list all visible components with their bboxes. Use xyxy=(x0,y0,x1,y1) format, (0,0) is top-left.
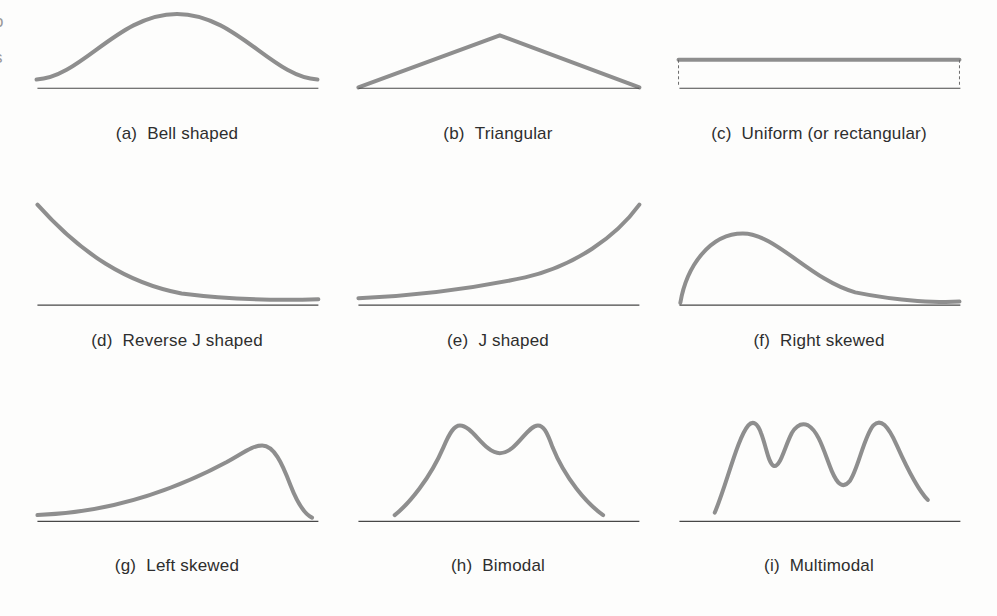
caption-tag: (d) xyxy=(91,331,112,351)
caption-name: Bimodal xyxy=(482,556,545,576)
reverse-j-curve xyxy=(37,205,318,300)
j-curve xyxy=(358,205,639,299)
panel-caption: (g) Left skewed xyxy=(115,556,239,576)
left-skewed-curve xyxy=(37,446,312,518)
caption-name: J shaped xyxy=(478,331,549,351)
figure-row-2: (d) Reverse J shaped (e) J shaped (f) Ri… xyxy=(32,185,964,351)
panel-caption: (h) Bimodal xyxy=(451,556,545,576)
triangle-curve xyxy=(358,35,639,87)
panel-uniform: (c) Uniform (or rectangular) xyxy=(674,6,964,144)
uniform-plot xyxy=(674,6,964,93)
caption-tag: (c) xyxy=(711,124,731,144)
caption-tag: (a) xyxy=(116,124,137,144)
panel-bimodal: (h) Bimodal xyxy=(353,390,643,576)
figure-row-1: (a) Bell shaped (b) Triangular (c) xyxy=(32,6,964,144)
panel-bell-shaped: (a) Bell shaped xyxy=(32,6,322,144)
panel-multimodal: (i) Multimodal xyxy=(674,390,964,576)
caption-name: Reverse J shaped xyxy=(123,331,263,351)
caption-tag: (g) xyxy=(115,556,136,576)
bimodal-plot xyxy=(353,390,643,529)
caption-tag: (e) xyxy=(447,331,468,351)
j-shaped-plot xyxy=(353,185,643,312)
caption-tag: (h) xyxy=(451,556,472,576)
panel-right-skewed: (f) Right skewed xyxy=(674,185,964,351)
caption-tag: (b) xyxy=(443,124,464,144)
caption-name: Multimodal xyxy=(790,556,874,576)
bell-curve xyxy=(37,14,318,80)
caption-name: Right skewed xyxy=(780,331,884,351)
multimodal-plot xyxy=(674,390,964,529)
bimodal-curve xyxy=(395,425,603,515)
panel-caption: (e) J shaped xyxy=(447,331,549,351)
panel-caption: (f) Right skewed xyxy=(753,331,884,351)
left-skewed-plot xyxy=(32,390,322,529)
caption-name: Uniform (or rectangular) xyxy=(742,124,927,144)
panel-caption: (i) Multimodal xyxy=(764,556,874,576)
caption-tag: (i) xyxy=(764,556,780,576)
reverse-j-plot xyxy=(32,185,322,312)
page-edge-fragment: s xyxy=(0,49,3,66)
right-skewed-curve xyxy=(680,233,959,302)
distribution-shapes-figure: o s (a) Bell shaped (b) Triangular xyxy=(0,0,997,616)
panel-reverse-j-shaped: (d) Reverse J shaped xyxy=(32,185,322,351)
right-skewed-plot xyxy=(674,185,964,312)
panel-left-skewed: (g) Left skewed xyxy=(32,390,322,576)
panel-caption: (b) Triangular xyxy=(443,124,552,144)
bell-shaped-plot xyxy=(32,6,322,93)
panel-triangular: (b) Triangular xyxy=(353,6,643,144)
triangular-plot xyxy=(353,6,643,93)
panel-caption: (a) Bell shaped xyxy=(116,124,238,144)
panel-j-shaped: (e) J shaped xyxy=(353,185,643,351)
page-edge-fragment: o xyxy=(0,13,3,30)
caption-name: Triangular xyxy=(475,124,553,144)
caption-tag: (f) xyxy=(753,331,770,351)
figure-row-3: (g) Left skewed (h) Bimodal (i) Multimod… xyxy=(32,390,964,576)
panel-caption: (c) Uniform (or rectangular) xyxy=(711,124,927,144)
panel-caption: (d) Reverse J shaped xyxy=(91,331,263,351)
caption-name: Left skewed xyxy=(146,556,239,576)
caption-name: Bell shaped xyxy=(147,124,238,144)
multimodal-curve xyxy=(715,422,928,512)
